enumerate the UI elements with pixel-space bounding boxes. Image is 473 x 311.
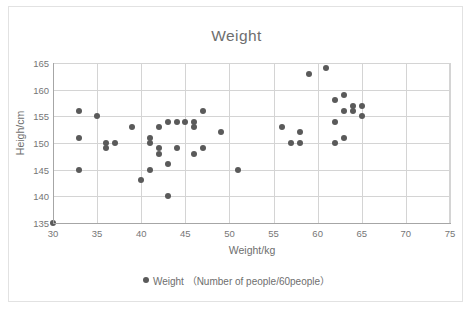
data-point (156, 124, 162, 130)
data-point (350, 108, 356, 114)
data-point (147, 140, 153, 146)
data-point (165, 161, 171, 167)
x-tick-50: 50 (209, 228, 249, 239)
y-tick-135: 135 (15, 218, 49, 229)
data-point (297, 140, 303, 146)
data-point (76, 167, 82, 173)
data-point (191, 124, 197, 130)
data-point (218, 129, 224, 135)
x-tick-40: 40 (121, 228, 161, 239)
data-point (103, 145, 109, 151)
data-point (182, 119, 188, 125)
data-point (94, 113, 100, 119)
gridline-x-40 (141, 63, 142, 223)
data-point (297, 129, 303, 135)
plot-area (53, 63, 450, 223)
chart-container: Weight Heigh/cm 135140145150155160165 30… (8, 6, 463, 302)
gridline-y-165 (53, 63, 450, 64)
x-tick-45: 45 (165, 228, 205, 239)
y-tick-165: 165 (15, 58, 49, 69)
gridline-x-70 (406, 63, 407, 223)
data-point (165, 119, 171, 125)
x-tick-65: 65 (342, 228, 382, 239)
data-point (200, 145, 206, 151)
data-point (200, 108, 206, 114)
data-point (359, 103, 365, 109)
data-point (279, 124, 285, 130)
data-point (341, 92, 347, 98)
x-axis-title: Weight/kg (53, 244, 451, 256)
data-point (129, 124, 135, 130)
y-axis-tick-labels: 135140145150155160165 (9, 63, 49, 224)
y-tick-160: 160 (15, 84, 49, 95)
data-point (341, 108, 347, 114)
data-point (174, 145, 180, 151)
data-point (235, 167, 241, 173)
data-point (165, 193, 171, 199)
data-point (323, 65, 329, 71)
data-point (332, 119, 338, 125)
data-point (332, 97, 338, 103)
gridline-y-145 (53, 170, 450, 171)
y-tick-155: 155 (15, 111, 49, 122)
y-tick-150: 150 (15, 138, 49, 149)
gridline-x-65 (362, 63, 363, 223)
data-point (174, 119, 180, 125)
x-tick-55: 55 (254, 228, 294, 239)
data-point (156, 151, 162, 157)
data-point (288, 140, 294, 146)
data-point (147, 167, 153, 173)
gridline-x-60 (318, 63, 319, 223)
gridline-x-55 (274, 63, 275, 223)
chart-title: Weight (9, 27, 464, 45)
y-tick-140: 140 (15, 191, 49, 202)
data-point (341, 135, 347, 141)
x-axis-line (53, 223, 451, 224)
data-point (359, 113, 365, 119)
data-point (191, 151, 197, 157)
data-point (112, 140, 118, 146)
gridline-x-50 (229, 63, 230, 223)
y-tick-145: 145 (15, 164, 49, 175)
gridline-x-35 (97, 63, 98, 223)
data-point (138, 177, 144, 183)
legend-marker-icon (143, 277, 149, 283)
chart-legend: Weight （Number of people/60people） (9, 273, 464, 288)
x-tick-75: 75 (430, 228, 470, 239)
legend-label: Weight （Number of people/60people） (153, 276, 330, 287)
y-axis-line (53, 63, 54, 224)
data-point (76, 135, 82, 141)
data-point (76, 108, 82, 114)
x-axis-tick-labels: 30354045505560657075 (53, 228, 451, 244)
gridline-y-140 (53, 196, 450, 197)
x-tick-70: 70 (386, 228, 426, 239)
gridline-x-75 (450, 63, 451, 223)
data-point (332, 140, 338, 146)
x-tick-60: 60 (298, 228, 338, 239)
x-tick-30: 30 (33, 228, 73, 239)
gridline-y-160 (53, 90, 450, 91)
gridline-x-45 (185, 63, 186, 223)
data-point (306, 71, 312, 77)
x-tick-35: 35 (77, 228, 117, 239)
gridline-y-155 (53, 116, 450, 117)
